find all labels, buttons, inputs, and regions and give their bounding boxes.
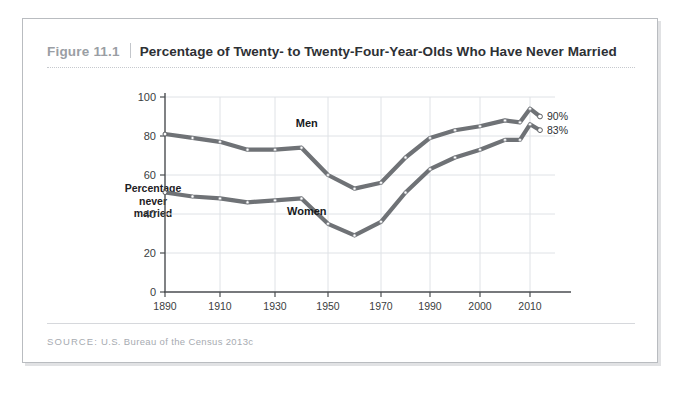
y-tick-label: 60 <box>144 169 156 181</box>
x-tick-label: 1890 <box>153 300 177 312</box>
source-text: U.S. Bureau of the Census 2013c <box>101 336 253 347</box>
x-tick-label: 2010 <box>518 300 542 312</box>
y-tick-labels: 020406080100 <box>138 91 156 298</box>
data-point <box>300 197 303 200</box>
x-tick-label: 2000 <box>468 300 492 312</box>
data-point <box>479 125 482 128</box>
y-tick-label: 20 <box>144 247 156 259</box>
data-point-last <box>538 114 543 119</box>
x-tick-label: 1930 <box>263 300 287 312</box>
data-point <box>191 195 194 198</box>
data-point <box>300 146 303 149</box>
header-divider <box>130 43 131 58</box>
y-tick-label: 0 <box>150 286 156 298</box>
data-point <box>246 148 249 151</box>
data-point-first <box>163 191 167 195</box>
y-tick-label: 80 <box>144 130 156 142</box>
y-tick-label: 100 <box>138 91 156 103</box>
figure-number: Figure 11.1 <box>47 44 120 59</box>
data-point <box>191 136 194 139</box>
data-point <box>529 123 532 126</box>
data-point <box>246 201 249 204</box>
source-label: SOURCE: <box>47 336 98 347</box>
y-tick-label: 40 <box>144 208 156 220</box>
men-end-label: 90% <box>547 110 568 122</box>
men-series-label: Men <box>296 117 318 129</box>
figure-header: Figure 11.1 Percentage of Twenty- to Twe… <box>47 41 637 59</box>
data-point <box>274 199 277 202</box>
women-series-label: Women <box>287 205 327 217</box>
data-point <box>479 148 482 151</box>
x-tick-label: 1950 <box>316 300 340 312</box>
data-point <box>219 140 222 143</box>
data-point <box>504 138 507 141</box>
x-tick-label: 1990 <box>418 300 442 312</box>
data-point <box>404 191 407 194</box>
data-point <box>380 220 383 223</box>
data-point <box>519 121 522 124</box>
data-point <box>353 234 356 237</box>
data-point <box>519 138 522 141</box>
data-point <box>353 187 356 190</box>
figure-title: Percentage of Twenty- to Twenty-Four-Yea… <box>140 44 617 59</box>
data-point <box>219 197 222 200</box>
data-point-first <box>163 132 167 136</box>
data-point <box>327 174 330 177</box>
data-point <box>529 107 532 110</box>
axes <box>160 93 571 297</box>
data-point <box>327 222 330 225</box>
x-tick-label: 1910 <box>208 300 232 312</box>
source-rule <box>47 323 635 324</box>
chart-plot-area: Percentage never married 020406080100 18… <box>111 87 611 317</box>
figure-card: Figure 11.1 Percentage of Twenty- to Twe… <box>22 18 658 363</box>
source-note: SOURCE: U.S. Bureau of the Census 2013c <box>47 336 253 347</box>
x-tick-label: 1970 <box>369 300 393 312</box>
data-point <box>404 156 407 159</box>
data-point <box>504 119 507 122</box>
data-point <box>454 156 457 159</box>
header-rule <box>47 67 635 69</box>
line-chart-svg: 020406080100 189019101930195019701990200… <box>111 87 611 317</box>
data-point <box>429 136 432 139</box>
women-end-label: 83% <box>547 124 568 136</box>
gridlines <box>165 97 555 292</box>
data-point <box>274 148 277 151</box>
data-point <box>380 181 383 184</box>
data-point-last <box>538 128 543 133</box>
data-point <box>454 129 457 132</box>
data-point <box>429 168 432 171</box>
chart-annotations: MenWomen90%83% <box>287 110 568 217</box>
x-tick-labels: 18901910193019501970199020002010 <box>153 300 542 312</box>
